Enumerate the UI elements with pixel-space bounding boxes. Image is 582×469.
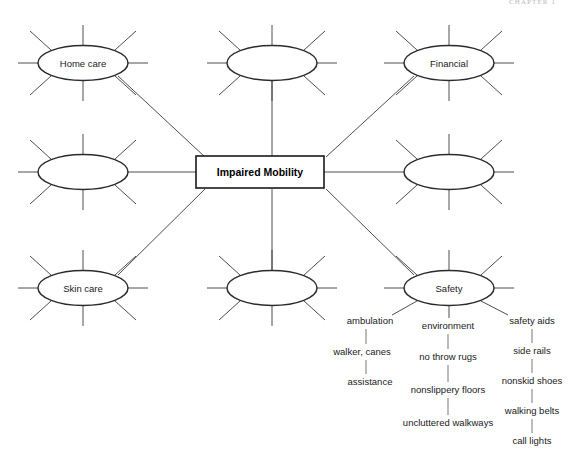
concept-map-diagram: Home care Financial Skin care <box>0 0 582 469</box>
ray-left-middle-nw <box>30 140 51 159</box>
node-right-middle[interactable] <box>404 155 494 190</box>
node-left-middle-shape[interactable] <box>38 155 128 190</box>
spoke-safety-to-center <box>326 189 414 275</box>
leaf-no-throw-rugs: no throw rugs <box>419 351 477 362</box>
node-home-care-label: Home care <box>60 58 106 69</box>
ray-safety-se <box>481 301 508 315</box>
ray-skin-care-se <box>115 301 136 320</box>
center-node-label: Impaired Mobility <box>217 166 304 178</box>
ray-safety-ne <box>481 256 502 275</box>
leaf-assistance: assistance <box>348 376 393 387</box>
leaf-nonslippery-floors: nonslippery floors <box>411 384 486 395</box>
ray-top-middle-sw <box>219 76 240 95</box>
ray-right-middle-nw <box>396 140 417 159</box>
ray-home-care-sw <box>30 76 51 95</box>
ray-bottom-middle-sw <box>219 301 240 320</box>
node-skin-care-label: Skin care <box>63 283 103 294</box>
ray-financial-sw <box>396 76 417 95</box>
ray-top-middle-ne <box>304 31 325 50</box>
ray-right-middle-ne <box>481 140 502 159</box>
node-top-middle-shape[interactable] <box>227 46 317 81</box>
leaf-uncluttered-walkways: uncluttered walkways <box>403 417 494 428</box>
ray-left-middle-ne <box>115 140 136 159</box>
center-node[interactable]: Impaired Mobility <box>196 156 324 188</box>
leaf-walking-belts: walking belts <box>504 405 560 416</box>
leaf-environment: environment <box>422 320 475 331</box>
branch-ambulation: ambulation walker, canes assistance <box>332 315 393 387</box>
ray-safety-nw <box>396 256 417 275</box>
leaf-walker-canes: walker, canes <box>332 346 391 357</box>
node-right-middle-shape[interactable] <box>404 155 494 190</box>
node-top-middle[interactable] <box>227 46 317 81</box>
ray-financial-se <box>481 76 502 95</box>
ray-top-middle-se <box>304 76 325 95</box>
node-financial-label: Financial <box>430 58 468 69</box>
node-bottom-middle-shape[interactable] <box>227 271 317 306</box>
node-home-care[interactable]: Home care <box>38 46 128 81</box>
ray-bottom-middle-nw <box>219 256 240 275</box>
ray-financial-nw <box>396 31 417 50</box>
ray-home-care-se <box>115 76 136 95</box>
node-safety-label: Safety <box>436 283 463 294</box>
ray-safety-sw <box>392 301 417 315</box>
leaf-call-lights: call lights <box>512 435 551 446</box>
node-left-middle[interactable] <box>38 155 128 190</box>
ray-left-middle-se <box>115 185 136 204</box>
ray-home-care-ne <box>115 31 136 50</box>
diagram-canvas: CHAPTER 1 <box>0 0 582 469</box>
leaf-side-rails: side rails <box>513 345 551 356</box>
ray-left-middle-sw <box>30 185 51 204</box>
ray-top-middle-nw <box>219 31 240 50</box>
node-safety[interactable]: Safety <box>404 271 494 306</box>
ray-financial-ne <box>481 31 502 50</box>
node-bottom-middle[interactable] <box>227 271 317 306</box>
ray-skin-care-nw <box>30 256 51 275</box>
node-financial[interactable]: Financial <box>404 46 494 81</box>
spoke-skin-care-to-center <box>118 189 205 275</box>
ray-bottom-middle-ne <box>304 256 325 275</box>
ray-right-middle-sw <box>396 185 417 204</box>
ray-bottom-middle-se <box>304 301 325 320</box>
ray-right-middle-se <box>481 185 502 204</box>
leaf-safety-aids: safety aids <box>509 315 555 326</box>
ray-skin-care-ne <box>115 256 136 275</box>
node-skin-care[interactable]: Skin care <box>38 271 128 306</box>
leaf-nonskid-shoes: nonskid shoes <box>502 375 563 386</box>
ray-skin-care-sw <box>30 301 51 320</box>
ray-home-care-nw <box>30 31 51 50</box>
leaf-ambulation: ambulation <box>347 315 393 326</box>
